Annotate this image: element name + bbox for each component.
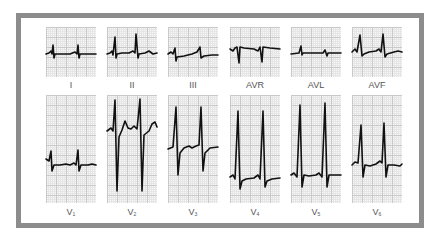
lead-v6-trace <box>352 95 402 203</box>
lead-i-label: I <box>46 80 96 90</box>
lead-avr-strip <box>230 27 280 77</box>
lead-v2-trace <box>107 95 157 203</box>
lead-avl-strip <box>291 27 341 77</box>
lead-avr-trace <box>230 27 280 77</box>
lead-v3-strip <box>168 95 218 203</box>
lead-v4-strip <box>230 95 280 203</box>
lead-v5-strip <box>291 95 341 203</box>
lead-ii-trace <box>107 27 157 77</box>
lead-ii-label: II <box>107 80 157 90</box>
lead-ii-strip <box>107 27 157 77</box>
lead-v2-label: V2 <box>107 207 157 217</box>
lead-i-strip <box>46 27 96 77</box>
lead-iii-strip <box>168 27 218 77</box>
lead-avf-trace <box>352 27 402 77</box>
lead-v6-strip <box>352 95 402 203</box>
lead-avl-trace <box>291 27 341 77</box>
lead-iii-trace <box>168 27 218 77</box>
lead-v1-label: V1 <box>46 207 96 217</box>
lead-v4-label: V4 <box>230 207 280 217</box>
lead-avr-label: AVR <box>230 80 280 90</box>
lead-v6-label: V6 <box>352 207 402 217</box>
lead-v1-strip <box>46 95 96 203</box>
lead-v5-trace <box>291 95 341 203</box>
lead-i-trace <box>46 27 96 77</box>
lead-avf-label: AVF <box>352 80 402 90</box>
lead-v3-label: V3 <box>168 207 218 217</box>
lead-avf-strip <box>352 27 402 77</box>
lead-v3-trace <box>168 95 218 203</box>
lead-v5-label: V5 <box>291 207 341 217</box>
lead-v2-strip <box>107 95 157 203</box>
lead-v4-trace <box>230 95 280 203</box>
lead-avl-label: AVL <box>291 80 341 90</box>
lead-v1-trace <box>46 95 96 203</box>
lead-iii-label: III <box>168 80 218 90</box>
